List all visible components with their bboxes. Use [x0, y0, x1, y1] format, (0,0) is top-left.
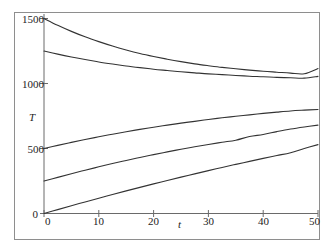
curve-5 — [44, 145, 318, 214]
x-tick-label-20: 20 — [148, 216, 159, 227]
y-tick-label-0: 0 — [16, 209, 38, 220]
data-curves — [44, 19, 318, 214]
plot-canvas — [0, 0, 332, 249]
y-tick-label-1000: 1000 — [16, 79, 44, 90]
x-tick-label-30: 30 — [203, 216, 214, 227]
x-tick-label-10: 10 — [93, 216, 104, 227]
x-tick-label-50: 50 — [309, 216, 320, 227]
y-tick-label-1500: 1500 — [16, 14, 44, 25]
curve-4 — [44, 125, 318, 181]
curve-3 — [44, 110, 318, 149]
x-tick-label-40: 40 — [258, 216, 269, 227]
curve-1 — [44, 19, 318, 75]
x-axis-title: t — [178, 219, 181, 230]
y-tick-label-500: 500 — [16, 144, 44, 155]
y-axis-title: T — [29, 112, 35, 123]
curve-2 — [44, 51, 318, 78]
x-tick-label-0: 0 — [45, 216, 51, 227]
chart-figure: 1500 1000 500 0 0 10 20 30 40 50 T t — [0, 0, 332, 249]
